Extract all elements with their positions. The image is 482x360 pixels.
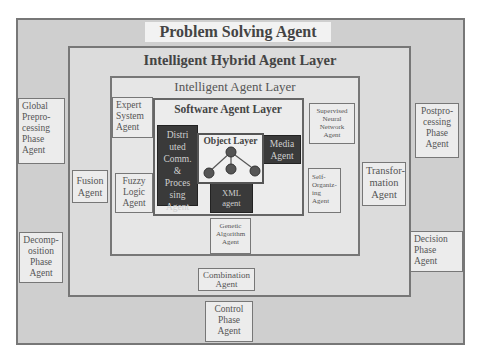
transformation-agent: Transfor- mation Agent xyxy=(362,162,406,206)
control-phase-agent: Control Phase Agent xyxy=(205,301,253,342)
software-agent-layer-title: Software Agent Layer xyxy=(163,102,293,116)
combination-agent: Combination Agent xyxy=(198,268,255,291)
object-tree-icon xyxy=(199,135,262,182)
supervised-neural-network-agent: Supervised Neural Network Agent xyxy=(309,103,355,144)
fuzzy-logic-agent: Fuzzy Logic Agent xyxy=(115,173,153,213)
decomposition-phase-agent: Decomp- osition Phase Agent xyxy=(19,232,63,283)
fusion-agent: Fusion Agent xyxy=(72,170,108,203)
object-layer: Object Layer xyxy=(197,133,264,184)
intelligent-agent-layer-title: Intelligent Agent Layer xyxy=(150,79,320,95)
self-organizing-agent: Self- Organiz- ing Agent xyxy=(308,168,341,213)
decision-phase-agent: Decision Phase Agent xyxy=(410,231,463,272)
xml-agent: XML agent xyxy=(210,183,253,213)
global-preprocessing-agent: Global Prepro- cessing Phase Agent xyxy=(18,98,65,164)
intelligent-hybrid-layer-title: Intelligent Hybrid Agent Layer xyxy=(110,52,370,69)
media-agent: Media Agent xyxy=(263,135,301,164)
genetic-algorithm-agent: Genetic Algorithm Agent xyxy=(210,218,251,254)
postprocessing-phase-agent: Postpro- cessing Phase Agent xyxy=(415,103,459,158)
distributed-comm-processing-agent: Distri uted Comm. & Proces sing Agent xyxy=(157,125,198,206)
expert-system-agent: Expert System Agent xyxy=(112,97,153,138)
problem-solving-layer-title: Problem Solving Agent Layer xyxy=(145,22,331,42)
